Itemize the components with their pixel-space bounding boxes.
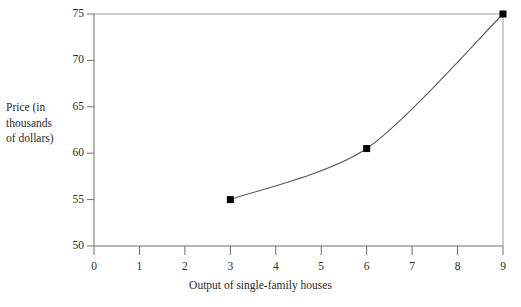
x-axis-ticks: [94, 246, 503, 255]
y-tick-label: 50: [40, 240, 84, 252]
x-tick-label: 0: [79, 261, 109, 273]
x-tick-label: 5: [306, 261, 336, 273]
y-tick-label: 70: [40, 54, 84, 66]
x-tick-label: 1: [124, 261, 154, 273]
y-axis-title-line-3: of dollars): [6, 131, 90, 147]
data-point-markers: [227, 11, 507, 204]
x-tick-label: 2: [170, 261, 200, 273]
x-tick-label: 6: [352, 261, 382, 273]
y-axis-title-line-2: thousands: [6, 116, 90, 132]
data-point-marker: [500, 11, 507, 18]
x-axis-title: Output of single-family houses: [0, 279, 521, 291]
y-axis-title-line-1: Price (in: [6, 100, 90, 116]
data-point-marker: [363, 145, 370, 152]
y-tick-label: 75: [40, 8, 84, 20]
y-axis-title: Price (in thousands of dollars): [6, 100, 90, 147]
y-tick-label: 55: [40, 194, 84, 206]
x-tick-label: 4: [261, 261, 291, 273]
x-tick-label: 7: [397, 261, 427, 273]
x-tick-label: 8: [443, 261, 473, 273]
guide-lines: [94, 14, 503, 246]
data-point-marker: [227, 196, 234, 203]
x-tick-label: 9: [488, 261, 518, 273]
axes: [94, 14, 503, 246]
y-tick-label: 60: [40, 147, 84, 159]
x-tick-label: 3: [215, 261, 245, 273]
chart-figure: 505560657075 0123456789 Price (in thousa…: [0, 0, 521, 307]
supply-curve: [230, 14, 503, 200]
